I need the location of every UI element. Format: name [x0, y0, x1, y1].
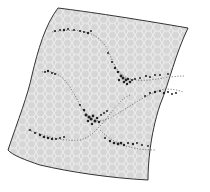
- sheet: [0, 0, 210, 192]
- som-diagram: [0, 0, 210, 192]
- diagram-canvas: [0, 0, 210, 192]
